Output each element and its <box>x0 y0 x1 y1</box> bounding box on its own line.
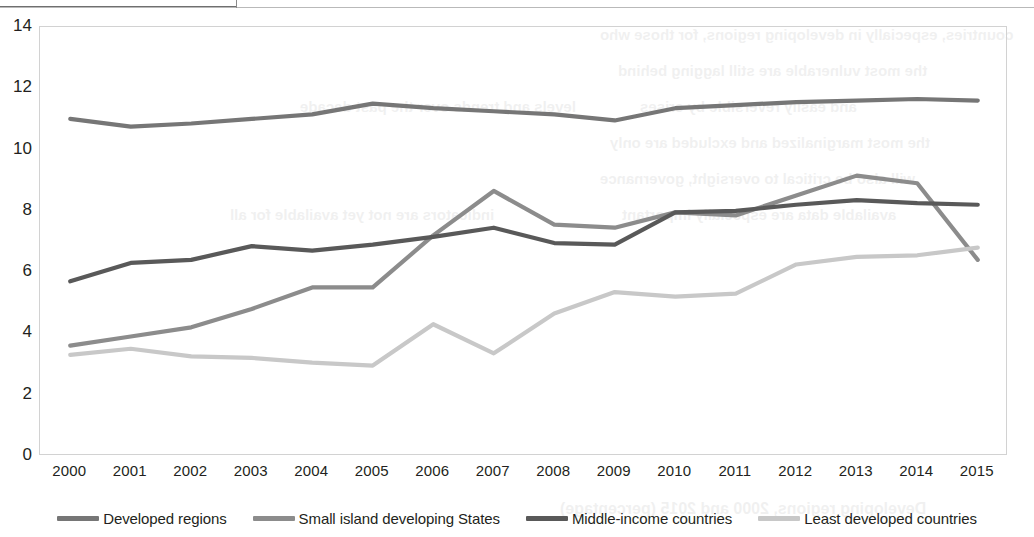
x-axis-tick-label: 2008 <box>536 462 570 479</box>
x-axis-tick-label: 2010 <box>657 462 691 479</box>
header-tick <box>236 0 237 8</box>
legend-swatch <box>758 516 800 521</box>
x-axis-tick-label: 2003 <box>234 462 268 479</box>
y-axis-tick-label: 0 <box>6 445 32 465</box>
x-axis-tick-label: 2001 <box>113 462 147 479</box>
series-line <box>70 248 978 366</box>
chart-legend: Developed regionsSmall island developing… <box>0 505 1034 531</box>
legend-swatch <box>526 516 568 521</box>
legend-item[interactable]: Least developed countries <box>758 510 977 527</box>
legend-label: Developed regions <box>103 510 226 527</box>
header-rule-accent <box>0 6 236 7</box>
y-axis-tick-label: 2 <box>6 384 32 404</box>
legend-swatch <box>57 516 99 521</box>
y-axis-tick-label: 10 <box>6 139 32 159</box>
x-axis-tick-label: 2002 <box>173 462 207 479</box>
x-axis-tick-label: 2000 <box>52 462 86 479</box>
series-lines <box>40 27 1008 456</box>
y-axis-tick-label: 8 <box>6 200 32 220</box>
legend-item[interactable]: Small island developing States <box>253 510 500 527</box>
y-axis-tick-label: 12 <box>6 77 32 97</box>
legend-label: Least developed countries <box>804 510 977 527</box>
legend-label: Small island developing States <box>299 510 500 527</box>
chart-page: countries, especially in developing regi… <box>0 0 1034 537</box>
header-rule <box>0 7 1034 8</box>
legend-item[interactable]: Middle-income countries <box>526 510 732 527</box>
plot-area <box>39 26 1007 455</box>
legend-item[interactable]: Developed regions <box>57 510 226 527</box>
y-axis-tick-label: 4 <box>6 322 32 342</box>
legend-swatch <box>253 516 295 521</box>
x-axis-tick-label: 2015 <box>960 462 994 479</box>
x-axis-tick-label: 2013 <box>839 462 873 479</box>
x-axis-tick-label: 2007 <box>476 462 510 479</box>
x-axis-tick-label: 2004 <box>294 462 328 479</box>
y-axis-tick-label: 6 <box>6 261 32 281</box>
x-axis-tick-label: 2009 <box>597 462 631 479</box>
x-axis-tick-label: 2005 <box>355 462 389 479</box>
x-axis-tick-label: 2006 <box>415 462 449 479</box>
x-axis-tick-label: 2011 <box>718 462 751 479</box>
x-axis-tick-label: 2012 <box>778 462 812 479</box>
series-line <box>70 99 978 127</box>
series-line <box>70 200 978 281</box>
y-axis-tick-label: 14 <box>6 16 32 36</box>
x-axis-tick-label: 2014 <box>899 462 933 479</box>
legend-label: Middle-income countries <box>572 510 732 527</box>
